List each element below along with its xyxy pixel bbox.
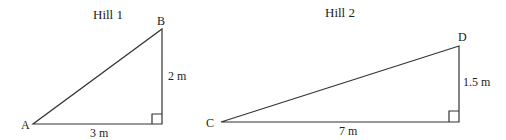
hill1-right-angle-marker: [152, 114, 162, 124]
hill1-vertex-b: B: [157, 15, 165, 27]
hill1-vertex-a: A: [21, 119, 30, 131]
hill2-height-label: 1.5 m: [463, 76, 490, 88]
hill2-vertex-c: C: [206, 117, 214, 129]
hill2-title: Hill 2: [325, 6, 355, 19]
hill1-height-label: 2 m: [168, 70, 186, 82]
hill2-base-label: 7 m: [339, 125, 357, 137]
hill2-vertex-d: D: [458, 31, 467, 43]
hill1-title: Hill 1: [93, 8, 123, 21]
diagram-canvas: [0, 0, 506, 140]
hill1-triangle: [33, 29, 162, 124]
hill1-base-label: 3 m: [90, 127, 108, 139]
hill2-right-angle-marker: [449, 111, 459, 122]
hill2-triangle: [221, 46, 459, 122]
